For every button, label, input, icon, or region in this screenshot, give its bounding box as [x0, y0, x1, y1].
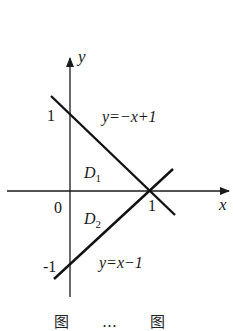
origin-label: 0 [54, 199, 62, 216]
y-tick-neg1: -1 [43, 258, 56, 275]
region-d1-label: D1 [83, 164, 101, 184]
y-axis-label: y [76, 47, 86, 66]
figure-caption-partial: 图 … 图 [0, 310, 233, 331]
equation-label-2: y=x−1 [97, 254, 143, 272]
x-axis-label: x [218, 195, 227, 214]
x-tick-1: 1 [148, 197, 156, 214]
y-tick-1: 1 [47, 107, 55, 124]
region-d2-label: D2 [83, 210, 101, 230]
equation-label-1: y=−x+1 [100, 108, 157, 126]
